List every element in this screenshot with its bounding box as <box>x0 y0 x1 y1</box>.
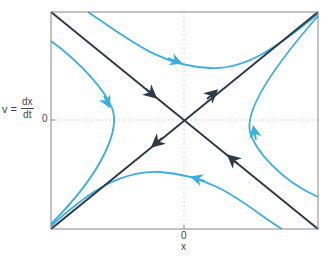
y-axis-label-prefix: v = <box>2 103 17 115</box>
y-axis-label: v = dx dt <box>2 96 34 121</box>
trajectory-arrows <box>104 58 256 181</box>
x-axis-label: x <box>181 241 186 252</box>
fraction-numerator: dx <box>21 96 34 109</box>
y-tick-zero: 0 <box>42 113 48 124</box>
trajectory-right <box>249 16 318 197</box>
fraction-denominator: dt <box>23 109 31 121</box>
x-tick-zero: 0 <box>181 230 187 241</box>
phase-portrait-plot <box>0 0 329 258</box>
separatrices <box>51 12 318 229</box>
trajectory-left <box>51 41 114 224</box>
derivative-fraction: dx dt <box>21 96 34 121</box>
